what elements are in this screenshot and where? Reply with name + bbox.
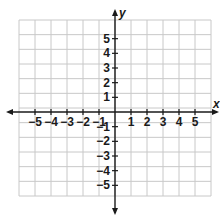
arrow-up-icon bbox=[112, 9, 118, 16]
x-tick-label: 1 bbox=[128, 115, 135, 129]
x-tick-label: −4 bbox=[44, 115, 58, 129]
y-tick-label: −1 bbox=[96, 120, 110, 134]
y-tick-label: −2 bbox=[96, 134, 110, 148]
y-axis-label: y bbox=[118, 6, 127, 20]
y-tick-label: 1 bbox=[103, 90, 110, 104]
x-tick-label: 5 bbox=[192, 115, 199, 129]
y-tick-label: −5 bbox=[96, 178, 110, 192]
y-tick-label: −3 bbox=[96, 149, 110, 163]
x-tick-label: −3 bbox=[60, 115, 74, 129]
y-tick-label: 5 bbox=[103, 32, 110, 46]
y-tick-label: 2 bbox=[103, 76, 110, 90]
x-tick-label: 3 bbox=[160, 115, 167, 129]
y-tick-label: 4 bbox=[103, 46, 110, 60]
x-tick-label: −5 bbox=[28, 115, 42, 129]
x-tick-label: −2 bbox=[76, 115, 90, 129]
x-axis-label: x bbox=[212, 97, 220, 111]
y-tick-label: −4 bbox=[96, 164, 110, 178]
arrow-down-icon bbox=[112, 208, 118, 215]
arrow-left-icon bbox=[6, 109, 13, 115]
x-tick-label: 2 bbox=[144, 115, 151, 129]
x-tick-label: 4 bbox=[176, 115, 183, 129]
y-tick-label: 3 bbox=[103, 61, 110, 75]
axes bbox=[6, 9, 219, 215]
coordinate-plane: −5−4−3−2−11234554321−1−2−3−4−5 x y bbox=[0, 0, 220, 216]
